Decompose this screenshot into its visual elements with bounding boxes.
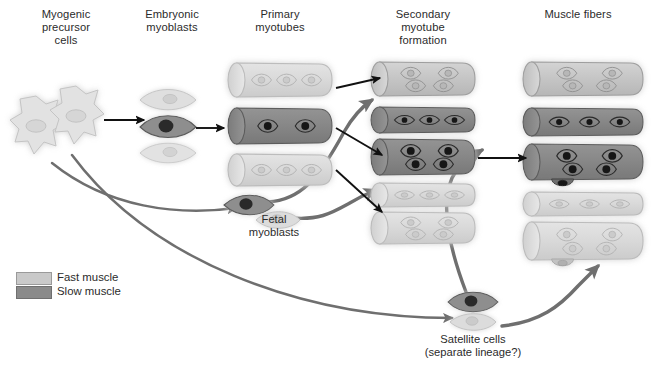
embryonic-myoblasts-group	[140, 90, 196, 163]
legend-swatch-slow-muscle	[16, 286, 52, 299]
satellite-cell-light	[450, 314, 496, 331]
column-heading-myogenic-precursor-cells: Myogenic precursor cells	[18, 8, 114, 48]
myogenic-precursor-cells-group	[10, 86, 104, 154]
column-heading-embryonic-myoblasts: Embryonic myoblasts	[124, 8, 220, 34]
secondary-myotube-5	[371, 212, 475, 244]
primary-myotube-2	[228, 108, 332, 144]
figure-canvas: Myogenic precursor cells Embryonic myobl…	[0, 0, 670, 375]
muscle-fibers-group	[523, 62, 643, 266]
secondary-myotube-1	[371, 62, 475, 96]
legend-label-fast-muscle: Fast muscle	[57, 271, 118, 284]
column-heading-muscle-fibers: Muscle fibers	[513, 8, 643, 21]
muscle-fiber-5-satellite-cell	[552, 259, 574, 266]
secondary-myotube-2	[371, 107, 475, 133]
secondary-myotube-4	[371, 183, 475, 207]
muscle-fiber-3-satellite-cell	[552, 179, 574, 186]
label-fetal-myoblasts: Fetal myoblasts	[228, 213, 320, 239]
muscle-fiber-5	[523, 222, 643, 266]
embryonic-myoblast-middle	[140, 116, 196, 138]
muscle-fiber-4	[523, 192, 643, 216]
legend-label-slow-muscle: Slow muscle	[57, 285, 121, 298]
primary-myotube-3	[228, 154, 332, 186]
curve-satellite-to-fiber	[502, 266, 598, 326]
curve-precursor-to-fetal	[52, 163, 236, 211]
legend-swatch-fast-muscle	[16, 272, 52, 285]
muscle-fiber-3	[523, 144, 643, 186]
primary-myotube-1	[228, 63, 332, 97]
fetal-myoblast-dark	[224, 195, 274, 215]
column-heading-secondary-myotube-formation: Secondary myotube formation	[371, 8, 475, 48]
muscle-fiber-2	[523, 108, 643, 136]
muscle-fiber-1	[523, 62, 643, 96]
diagram-svg	[0, 0, 670, 375]
column-heading-primary-myotubes: Primary myotubes	[228, 8, 332, 34]
secondary-myotubes-group	[371, 62, 475, 244]
embryonic-myoblast-bottom	[140, 143, 196, 163]
precursor-cell-2	[50, 86, 104, 144]
satellite-cell-dark	[448, 292, 498, 312]
precursor-cell-1	[10, 96, 64, 154]
embryonic-myoblast-top	[140, 90, 196, 110]
label-satellite-cells: Satellite cells (separate lineage?)	[388, 333, 558, 359]
primary-myotubes-group	[228, 63, 332, 186]
satellite-cells-group	[448, 292, 498, 330]
secondary-myotube-3	[371, 139, 475, 175]
